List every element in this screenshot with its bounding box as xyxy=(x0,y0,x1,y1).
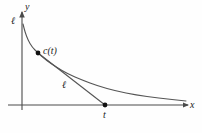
chord-ell-label: ℓ xyxy=(62,80,66,90)
curve-start-ell-label: ℓ xyxy=(11,16,15,26)
point-c-of-t-marker xyxy=(36,51,41,56)
point-t-marker xyxy=(103,103,108,108)
y-axis-label: y xyxy=(25,2,29,12)
chord-segment xyxy=(38,53,105,105)
x-axis-label: x xyxy=(190,100,194,110)
math-figure-canvas xyxy=(0,0,202,133)
point-t-label: t xyxy=(103,110,106,120)
decay-curve xyxy=(23,24,186,101)
figure-container: y x ℓ c(t) ℓ t xyxy=(0,0,202,133)
point-c-of-t-label: c(t) xyxy=(43,46,57,56)
